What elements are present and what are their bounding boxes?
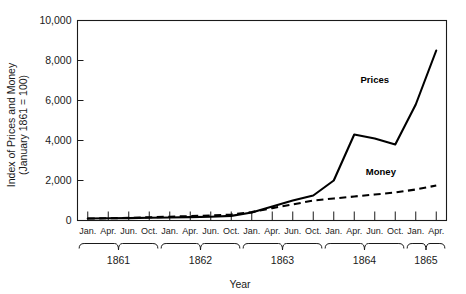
x-tick-label: Jun. bbox=[284, 226, 301, 236]
year-label: 1865 bbox=[414, 254, 438, 266]
x-tick-label: Apr. bbox=[100, 226, 116, 236]
x-axis-ticks bbox=[88, 212, 437, 221]
x-tick-label: Oct. bbox=[141, 226, 158, 236]
y-tick-label: 0 bbox=[66, 214, 72, 226]
y-axis-label-group: Index of Prices and Money (January 1861 … bbox=[5, 62, 29, 187]
series-annotations: PricesMoney bbox=[360, 74, 396, 177]
chart-figure: Index of Prices and Money (January 1861 … bbox=[0, 0, 466, 294]
y-tick-label: 4,000 bbox=[45, 134, 71, 146]
year-label: 1861 bbox=[107, 254, 131, 266]
year-bracket bbox=[243, 244, 322, 251]
year-bracket bbox=[325, 244, 404, 251]
x-axis-title: Year bbox=[229, 278, 251, 290]
x-axis-tick-labels: Jan.Apr.Jun.Oct.Jan.Apr.Jun.Oct.Jan.Apr.… bbox=[79, 226, 444, 236]
x-tick-label: Apr. bbox=[428, 226, 444, 236]
year-brackets-group: 18611862186318641865 bbox=[79, 244, 445, 266]
year-label: 1862 bbox=[189, 254, 213, 266]
year-bracket bbox=[161, 244, 240, 251]
x-tick-label: Jun. bbox=[366, 226, 383, 236]
year-label: 1863 bbox=[271, 254, 295, 266]
year-label: 1864 bbox=[353, 254, 377, 266]
x-tick-label: Jan. bbox=[243, 226, 260, 236]
year-bracket bbox=[79, 244, 158, 251]
x-tick-label: Jan. bbox=[79, 226, 96, 236]
x-tick-label: Jan. bbox=[161, 226, 178, 236]
x-tick-label: Jun. bbox=[120, 226, 137, 236]
year-bracket bbox=[407, 244, 445, 251]
series-line-money bbox=[88, 186, 437, 219]
y-tick-label: 2,000 bbox=[45, 174, 71, 186]
x-tick-label: Jan. bbox=[407, 226, 424, 236]
y-tick-label: 8,000 bbox=[45, 54, 71, 66]
x-tick-label: Oct. bbox=[223, 226, 240, 236]
y-axis-ticks: 02,0004,0006,0008,00010,000 bbox=[39, 14, 83, 226]
y-axis-label-line1: Index of Prices and Money bbox=[5, 62, 17, 187]
y-tick-label: 6,000 bbox=[45, 94, 71, 106]
x-tick-label: Apr. bbox=[182, 226, 198, 236]
series-label-prices: Prices bbox=[360, 74, 389, 85]
y-axis-label-line2: (January 1861 = 100) bbox=[17, 75, 29, 175]
plot-frame bbox=[78, 21, 447, 221]
series-label-money: Money bbox=[366, 166, 397, 177]
chart-svg: Index of Prices and Money (January 1861 … bbox=[0, 0, 466, 294]
y-tick-label: 10,000 bbox=[39, 14, 71, 26]
x-tick-label: Apr. bbox=[346, 226, 362, 236]
x-tick-label: Apr. bbox=[264, 226, 280, 236]
x-tick-label: Jan. bbox=[325, 226, 342, 236]
x-tick-label: Oct. bbox=[305, 226, 322, 236]
x-tick-label: Jun. bbox=[202, 226, 219, 236]
x-tick-label: Oct. bbox=[387, 226, 404, 236]
